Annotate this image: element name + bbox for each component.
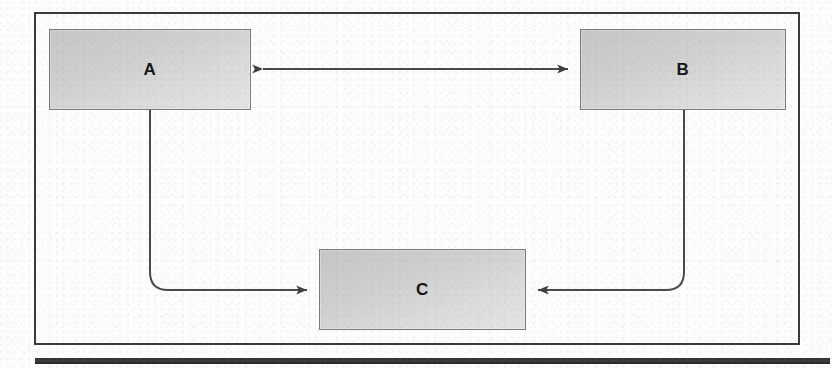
node-a[interactable]: A [49,29,251,110]
diagram-canvas: A B C [0,0,832,368]
node-b-label: B [581,60,785,80]
bottom-rule [35,358,830,364]
node-c-label: C [320,280,525,300]
node-a-label: A [50,60,250,80]
node-b[interactable]: B [580,29,786,110]
node-c[interactable]: C [319,249,526,330]
